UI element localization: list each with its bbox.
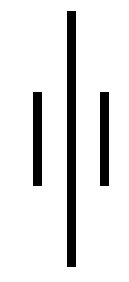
left-bar bbox=[33, 92, 42, 186]
center-bar bbox=[67, 11, 76, 267]
right-bar bbox=[100, 92, 109, 186]
figure-canvas bbox=[0, 0, 129, 282]
